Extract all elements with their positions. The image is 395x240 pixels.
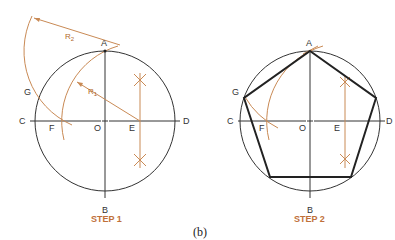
step2-label-a: A [306, 38, 312, 48]
step2-label-c: C [227, 116, 234, 126]
step1-label-o: O [94, 123, 101, 133]
step2-panel: A B C D E F G O STEP 2 [227, 38, 393, 224]
step1-label-e: E [129, 123, 135, 133]
step1-label-d: D [183, 116, 190, 126]
step2-label-o: O [299, 123, 306, 133]
step1-r1-line [77, 82, 140, 121]
step1-panel: A B C D E F G O R2 R1 STEP 1 [19, 16, 190, 224]
step2-label-e: E [334, 123, 340, 133]
step2-title: STEP 2 [294, 214, 325, 224]
step2-label-f: F [259, 123, 265, 133]
figure-label: (b) [193, 225, 207, 239]
step1-label-g: G [24, 87, 31, 97]
step1-label-f: F [49, 123, 55, 133]
pentagon-construction-diagram: A B C D E F G O R2 R1 STEP 1 A B C D E F… [0, 0, 395, 240]
step1-label-r2: R2 [65, 32, 75, 42]
step1-label-c: C [19, 116, 26, 126]
step1-title: STEP 1 [91, 214, 122, 224]
step2-label-g: G [232, 87, 239, 97]
step1-label-r1: R1 [88, 87, 98, 97]
step1-r2-line [34, 18, 120, 45]
step2-label-d: D [386, 116, 393, 126]
step1-label-a: A [101, 38, 107, 48]
